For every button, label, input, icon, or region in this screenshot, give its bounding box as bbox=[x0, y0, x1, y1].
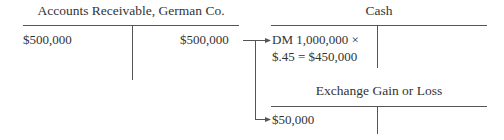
connector-arrows-icon bbox=[0, 0, 504, 140]
